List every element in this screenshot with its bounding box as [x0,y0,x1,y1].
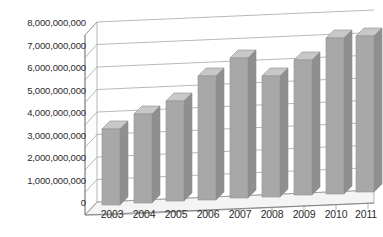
bar-2003 [102,121,128,205]
bar-2007 [230,50,256,198]
x-axis-label-2008: 2008 [255,209,289,220]
y-axis-label-1b: 1,000,000,000 [2,176,86,186]
y-axis-label-8b: 8,000,000,000 [2,18,86,28]
y-axis-label-4b: 4,000,000,000 [2,108,86,118]
bar-2004 [134,106,160,203]
bar-2008 [262,68,288,197]
bar-2011 [356,28,382,192]
bar-2010 [326,30,352,194]
x-axis-label-2011: 2011 [349,209,383,220]
x-axis-label-2009: 2009 [287,209,321,220]
y-axis-label-0: 0 [2,198,86,208]
bar-2006 [198,68,224,200]
bar-2009 [294,52,320,195]
x-axis-label-2010: 2010 [319,209,353,220]
x-axis-label-2003: 2003 [95,209,129,220]
y-axis-label-2b: 2,000,000,000 [2,153,86,163]
bar-2005 [166,93,192,201]
y-axis-label-6b: 6,000,000,000 [2,63,86,73]
x-axis-label-2005: 2005 [159,209,193,220]
y-axis-label-5b: 5,000,000,000 [2,86,86,96]
x-axis-label-2006: 2006 [191,209,225,220]
y-axis-label-7b: 7,000,000,000 [2,41,86,51]
x-axis-label-2007: 2007 [223,209,257,220]
y-axis-label-3b: 3,000,000,000 [2,131,86,141]
bar-chart: 8,000,000,000 7,000,000,000 6,000,000,00… [0,0,383,237]
x-axis-label-2004: 2004 [127,209,161,220]
